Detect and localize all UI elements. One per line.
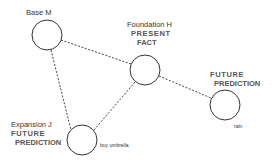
node-foundation [130,55,160,85]
expansion-line3: PREDICTION [15,138,61,147]
expansion-caption: buy umbrella [100,141,129,150]
future-right-line2: PREDICTION [214,79,260,88]
expansion-title: Expansion J [11,120,52,129]
future-right-caption: rain [234,122,242,131]
node-base [32,20,62,50]
node-expansion [67,125,97,155]
foundation-line2: PRESENT [131,29,171,38]
edge-base-foundation [61,40,131,64]
base-title: Base M [26,8,51,17]
foundation-title: Foundation H [127,20,172,29]
edge-foundation-expansion [94,82,135,130]
node-future-right [210,90,240,120]
future-right-line1: FUTURE [210,70,244,79]
edge-foundation-future [159,76,211,98]
expansion-line2: FUTURE [11,129,45,138]
foundation-line3: FACT [137,38,157,47]
edge-base-expansion [51,50,71,130]
